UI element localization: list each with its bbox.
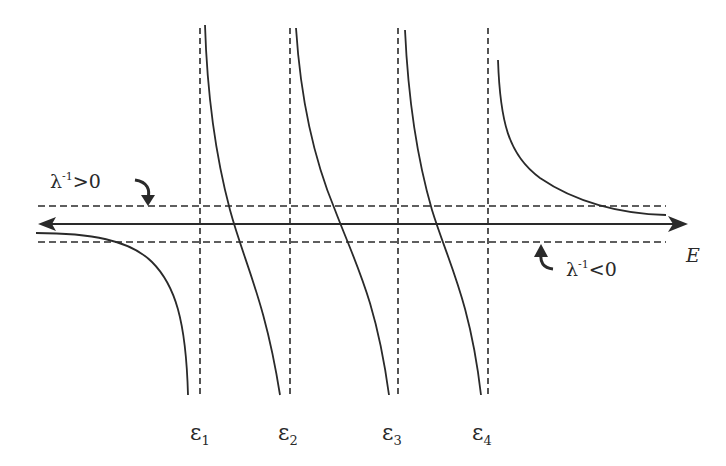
epsilon-1-label: ε1 xyxy=(190,420,210,448)
energy-axis-label: E xyxy=(685,244,700,266)
diagram-canvas: λ-1>0 λ-1<0 E ε1 ε2 ε3 ε4 xyxy=(0,0,726,466)
epsilon-3-label: ε3 xyxy=(382,420,402,448)
curve-left-branch xyxy=(36,233,188,395)
curve-branch-3-4 xyxy=(405,30,481,395)
arrowhead-down-icon xyxy=(141,195,155,206)
secular-function-curves xyxy=(36,25,666,395)
pole-asymptotes xyxy=(200,28,488,396)
epsilon-4-label: ε4 xyxy=(472,420,492,448)
epsilon-2-label: ε2 xyxy=(278,420,298,448)
curve-branch-2-3 xyxy=(296,28,389,395)
arrowhead-up-icon xyxy=(534,244,548,257)
lambda-positive-label: λ-1>0 xyxy=(50,170,101,192)
curve-branch-1-2 xyxy=(205,25,280,395)
lambda-negative-label: λ-1<0 xyxy=(566,258,617,280)
curve-right-branch xyxy=(498,60,666,215)
